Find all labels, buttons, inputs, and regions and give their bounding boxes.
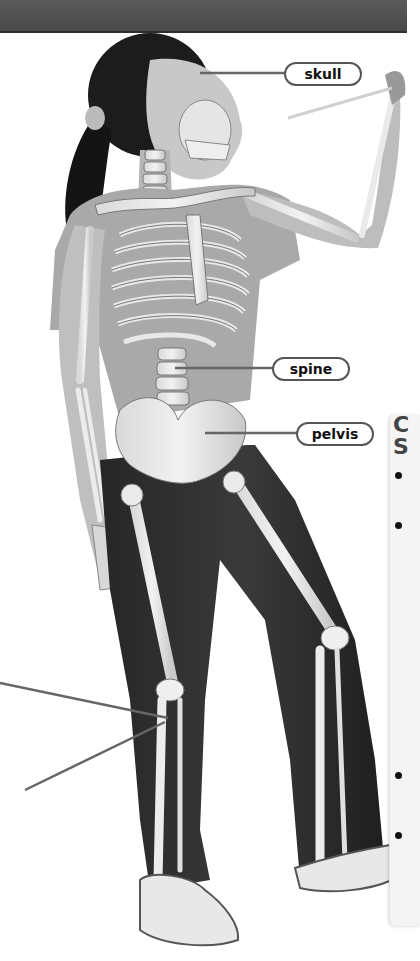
pointer-stick (288, 88, 392, 118)
label-skull: skull (284, 62, 362, 86)
bullet-4 (395, 832, 402, 839)
panel-heading-line1: C (393, 414, 409, 436)
side-text-panel: C S (389, 414, 420, 926)
bullet-2 (395, 522, 402, 529)
label-pelvis-text: pelvis (312, 426, 359, 442)
label-pelvis: pelvis (296, 422, 374, 446)
label-spine-text: spine (290, 361, 333, 377)
panel-heading-line2: S (393, 436, 409, 458)
bullet-3 (395, 772, 402, 779)
label-spine: spine (272, 357, 350, 381)
bullet-1 (395, 472, 402, 479)
label-skull-text: skull (304, 66, 341, 82)
